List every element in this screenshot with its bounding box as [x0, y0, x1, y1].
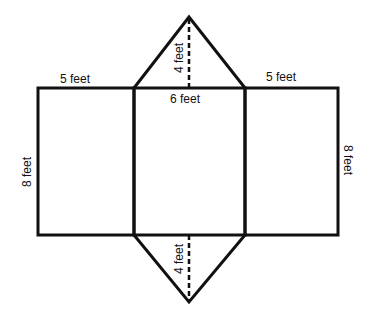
left-rectangle — [38, 88, 134, 235]
right-rectangle — [245, 88, 338, 235]
left-rect-top-label: 5 feet — [60, 72, 91, 86]
prism-net-diagram: 5 feet 5 feet 6 feet 8 feet 8 feet 4 fee… — [0, 0, 370, 318]
right-rect-top-label: 5 feet — [266, 70, 297, 84]
center-top-label: 6 feet — [170, 92, 201, 106]
bottom-triangle-height-label: 4 feet — [172, 243, 186, 274]
left-height-label: 8 feet — [20, 156, 34, 187]
right-height-label: 8 feet — [341, 145, 355, 176]
top-triangle-height-label: 4 feet — [172, 42, 186, 73]
center-rectangle — [134, 88, 245, 235]
